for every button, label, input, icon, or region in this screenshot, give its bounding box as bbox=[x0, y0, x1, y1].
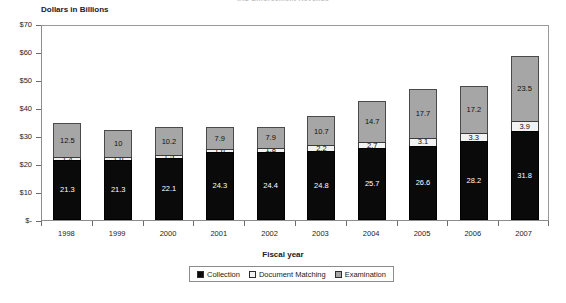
bar-value-label: 28.2 bbox=[466, 177, 481, 185]
y-axis-title: Dollars in Billions bbox=[41, 5, 109, 14]
bar-value-label: 31.8 bbox=[517, 172, 532, 180]
bar-segment-examination[interactable]: 23.5 bbox=[511, 56, 539, 122]
bar-value-label: 12.5 bbox=[60, 137, 75, 145]
y-axis-tick-label: $10 bbox=[19, 188, 32, 197]
x-axis-tick-label: 2007 bbox=[494, 229, 554, 238]
x-axis-tick-mark bbox=[244, 221, 245, 226]
y-axis-tick-label: $70 bbox=[19, 20, 32, 29]
bar-segment-collection[interactable]: 25.7 bbox=[358, 148, 386, 220]
bar-value-label: 3.9 bbox=[519, 123, 529, 131]
bar-segment-collection[interactable]: 24.4 bbox=[257, 152, 285, 220]
x-axis-tick-mark bbox=[397, 221, 398, 226]
bar-value-label: 17.7 bbox=[416, 110, 431, 118]
bar-group[interactable]: 17.23.328.2 bbox=[460, 87, 488, 220]
bar-segment-collection[interactable]: 28.2 bbox=[460, 141, 488, 220]
y-axis-tick-label: $30 bbox=[19, 132, 32, 141]
bar-segment-examination[interactable]: 10.7 bbox=[307, 116, 335, 146]
legend-label: Document Matching bbox=[259, 270, 326, 279]
bar-value-label: 10.2 bbox=[162, 138, 177, 146]
bar-value-label: 25.7 bbox=[365, 180, 380, 188]
chart-legend: CollectionDocument MatchingExamination bbox=[189, 266, 394, 282]
bar-segment-collection[interactable]: 26.6 bbox=[409, 146, 437, 220]
bar-segment-collection[interactable]: 24.8 bbox=[307, 151, 335, 220]
bar-segment-examination[interactable]: 10.2 bbox=[155, 127, 183, 156]
bar-group[interactable]: 7.91.624.3 bbox=[206, 128, 234, 220]
bar-value-label: 22.1 bbox=[162, 185, 177, 193]
legend-label: Examination bbox=[345, 270, 386, 279]
bar-group[interactable]: 101.621.3 bbox=[104, 131, 132, 220]
bar-value-label: 17.2 bbox=[466, 106, 481, 114]
x-axis-tick-mark bbox=[346, 221, 347, 226]
legend-label: Collection bbox=[207, 270, 240, 279]
bar-segment-examination[interactable]: 7.9 bbox=[257, 127, 285, 149]
bar-segment-collection[interactable]: 24.3 bbox=[206, 152, 234, 220]
x-axis-tick-mark bbox=[498, 221, 499, 226]
bar-value-label: 21.3 bbox=[60, 186, 75, 194]
legend-swatch-icon bbox=[197, 271, 204, 278]
bar-value-label: 24.8 bbox=[314, 182, 329, 190]
x-axis-tick-mark bbox=[548, 221, 549, 226]
legend-swatch-icon bbox=[335, 271, 342, 278]
bar-value-label: 14.7 bbox=[365, 118, 380, 126]
bar-value-label: 24.3 bbox=[212, 182, 227, 190]
y-axis-tick-label: $- bbox=[25, 216, 32, 225]
bar-segment-examination[interactable]: 17.2 bbox=[460, 86, 488, 134]
bar-value-label: 21.3 bbox=[111, 186, 126, 194]
legend-item-collection[interactable]: Collection bbox=[197, 270, 240, 279]
bar-value-label: 24.4 bbox=[263, 182, 278, 190]
plot-area: 12.51.421.3101.621.310.21.522.17.91.624.… bbox=[41, 25, 549, 221]
bar-segment-examination[interactable]: 7.9 bbox=[206, 127, 234, 149]
bar-value-label: 10 bbox=[114, 140, 122, 148]
x-axis-tick-mark bbox=[193, 221, 194, 226]
x-axis-tick-mark bbox=[143, 221, 144, 226]
bar-value-label: 10.7 bbox=[314, 128, 329, 136]
bar-segment-examination[interactable]: 12.5 bbox=[53, 123, 81, 158]
bar-segment-collection[interactable]: 21.3 bbox=[104, 160, 132, 220]
x-axis-tick-mark bbox=[41, 221, 42, 226]
bar-segment-examination[interactable]: 14.7 bbox=[358, 101, 386, 142]
bar-value-label: 7.9 bbox=[265, 134, 275, 142]
bar-group[interactable]: 10.72.224.8 bbox=[307, 117, 335, 220]
bar-value-label: 7.9 bbox=[215, 135, 225, 143]
bar-value-label: 23.5 bbox=[517, 85, 532, 93]
chart-title: IRS Enforcement Revenue bbox=[0, 0, 566, 2]
y-axis-tick-label: $50 bbox=[19, 76, 32, 85]
enforcement-revenue-chart: IRS Enforcement Revenue Dollars in Billi… bbox=[0, 0, 566, 303]
y-axis-tick-label: $40 bbox=[19, 104, 32, 113]
bar-group[interactable]: 17.73.126.6 bbox=[409, 90, 437, 220]
bar-segment-examination[interactable]: 17.7 bbox=[409, 89, 437, 139]
bar-group[interactable]: 23.53.931.8 bbox=[511, 57, 539, 220]
bar-segment-collection[interactable]: 22.1 bbox=[155, 158, 183, 220]
y-axis-tick-label: $60 bbox=[19, 48, 32, 57]
x-axis-tick-mark bbox=[295, 221, 296, 226]
bar-value-label: 26.6 bbox=[416, 179, 431, 187]
bar-group[interactable]: 12.51.421.3 bbox=[53, 124, 81, 220]
bar-group[interactable]: 10.21.522.1 bbox=[155, 128, 183, 220]
bar-segment-examination[interactable]: 10 bbox=[104, 130, 132, 158]
y-axis-tick-label: $20 bbox=[19, 160, 32, 169]
legend-item-document-matching[interactable]: Document Matching bbox=[249, 270, 326, 279]
bar-segment-collection[interactable]: 31.8 bbox=[511, 131, 539, 220]
legend-swatch-icon bbox=[249, 271, 256, 278]
bar-group[interactable]: 14.72.725.7 bbox=[358, 102, 386, 220]
legend-item-examination[interactable]: Examination bbox=[335, 270, 386, 279]
bar-group[interactable]: 7.91.824.4 bbox=[257, 128, 285, 220]
x-axis-tick-mark bbox=[92, 221, 93, 226]
bar-segment-collection[interactable]: 21.3 bbox=[53, 160, 81, 220]
x-axis-tick-mark bbox=[447, 221, 448, 226]
x-axis-title: Fiscal year bbox=[0, 250, 566, 259]
